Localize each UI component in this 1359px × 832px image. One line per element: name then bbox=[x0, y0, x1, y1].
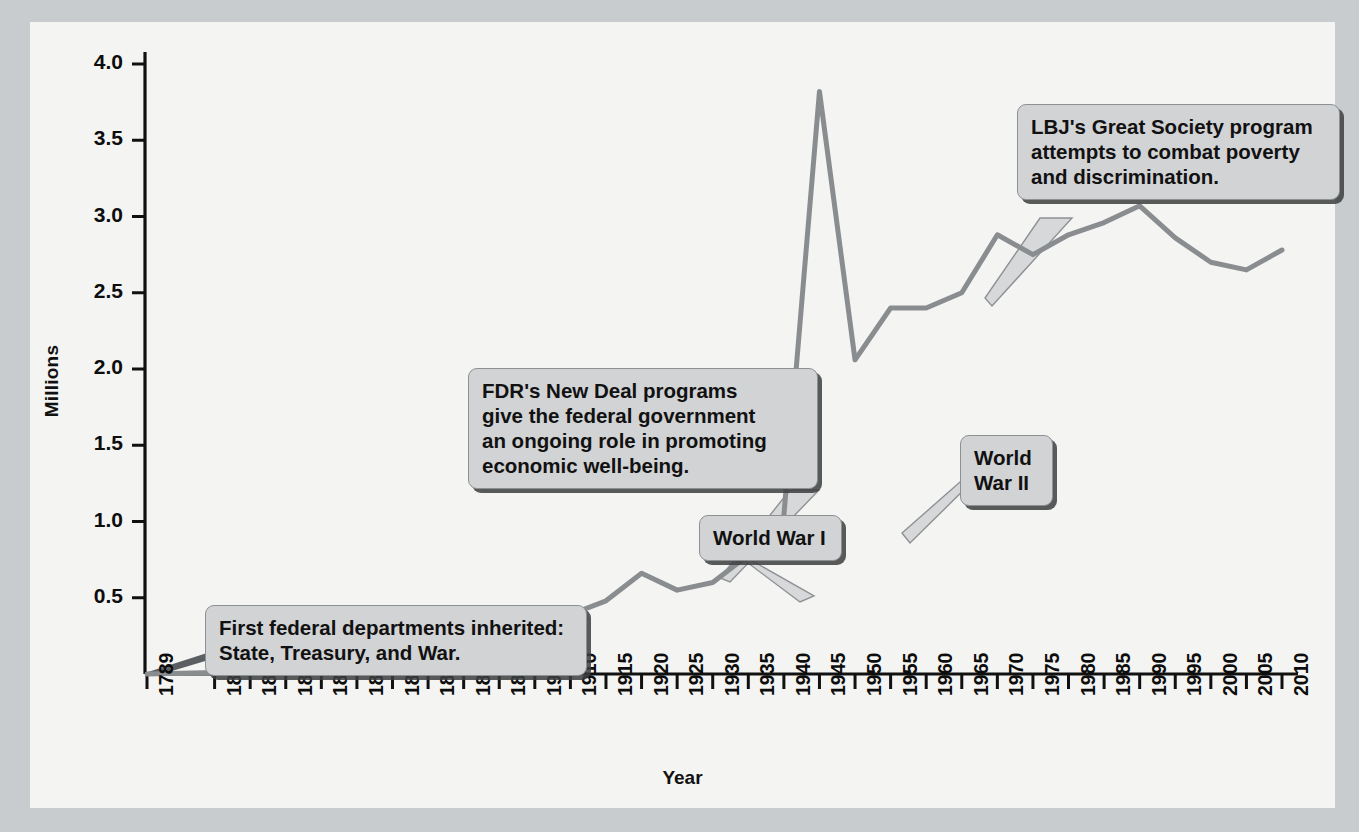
x-tick-label: 1990 bbox=[1148, 653, 1171, 696]
x-tick-label: 1975 bbox=[1041, 653, 1064, 696]
y-tick-label: 2.0 bbox=[63, 355, 123, 379]
x-tick-label: 1915 bbox=[614, 653, 637, 696]
x-tick-label: 1995 bbox=[1183, 653, 1206, 696]
x-tick-label: 1925 bbox=[685, 653, 708, 696]
x-tick-label: 1970 bbox=[1005, 653, 1028, 696]
x-tick-label: 1789 bbox=[155, 653, 178, 696]
page-margin-top bbox=[0, 0, 1359, 22]
y-tick-label: 3.0 bbox=[63, 203, 123, 227]
x-tick-label: 1960 bbox=[934, 653, 957, 696]
x-tick-label: 2005 bbox=[1254, 653, 1277, 696]
callout-fdr-new-deal: FDR's New Deal programs give the federal… bbox=[468, 368, 818, 489]
y-tick-label: 0.5 bbox=[63, 584, 123, 608]
y-tick-label: 1.0 bbox=[63, 508, 123, 532]
callout-world-war-two: World War II bbox=[960, 435, 1053, 506]
x-tick-label: 1980 bbox=[1077, 653, 1100, 696]
x-tick-label: 2010 bbox=[1290, 653, 1313, 696]
x-tick-label: 1935 bbox=[756, 653, 779, 696]
y-axis-title: Millions bbox=[41, 345, 63, 417]
x-tick-label: 1945 bbox=[827, 653, 850, 696]
x-tick-label: 1940 bbox=[792, 653, 815, 696]
callout-first-federal-departments: First federal departments inherited: Sta… bbox=[205, 605, 587, 676]
x-tick-label: 1985 bbox=[1112, 653, 1135, 696]
x-tick-label: 2000 bbox=[1219, 653, 1242, 696]
y-axis-ticks bbox=[132, 64, 145, 598]
y-tick-label: 3.5 bbox=[63, 126, 123, 150]
callout-lbj-great-society: LBJ's Great Society program attempts to … bbox=[1017, 104, 1340, 200]
x-axis-title: Year bbox=[30, 767, 1335, 789]
y-tick-label: 2.5 bbox=[63, 279, 123, 303]
x-tick-label: 1930 bbox=[721, 653, 744, 696]
figure-page: Millions Year 0.51.01.52.02.53.03.54.0 1… bbox=[0, 0, 1359, 832]
page-margin-bottom bbox=[0, 808, 1359, 832]
callout-world-war-one: World War I bbox=[699, 515, 842, 561]
y-tick-label: 4.0 bbox=[63, 50, 123, 74]
x-tick-label: 1965 bbox=[970, 653, 993, 696]
page-margin-left bbox=[0, 0, 30, 832]
chart-figure: Millions Year 0.51.01.52.02.53.03.54.0 1… bbox=[30, 22, 1335, 808]
x-tick-label: 1920 bbox=[650, 653, 673, 696]
x-tick-label: 1950 bbox=[863, 653, 886, 696]
y-tick-label: 1.5 bbox=[63, 431, 123, 455]
x-tick-label: 1955 bbox=[899, 653, 922, 696]
leader-lbj bbox=[985, 218, 1072, 306]
